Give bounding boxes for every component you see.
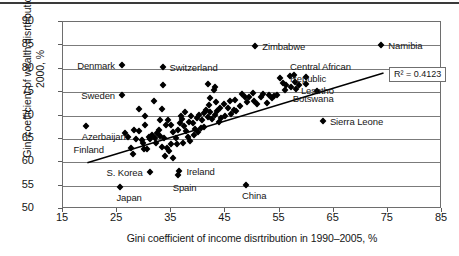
annotation-central-african: Central African <box>290 61 351 72</box>
data-point-namibia <box>378 42 385 49</box>
data-point <box>141 113 148 120</box>
data-point-zimbabwe <box>252 43 259 50</box>
annotation-japan: Japan <box>116 192 141 203</box>
data-point <box>168 122 175 129</box>
data-point-denmark <box>118 61 125 68</box>
x-tick-label: 35 <box>155 211 185 223</box>
y-tick-label: 90 <box>4 14 34 26</box>
annotation-republic: Republic <box>290 73 326 84</box>
gridline <box>63 69 440 70</box>
x-axis-title: Gini coefficient of income disrtribution… <box>62 232 442 244</box>
x-tick-label: 55 <box>264 211 294 223</box>
y-tick-label: 80 <box>4 61 34 73</box>
x-tick-mark <box>170 208 171 212</box>
annotation-azerbaijan: Azerbaijan <box>82 131 126 142</box>
annotation-ireland: Ireland <box>186 166 214 177</box>
annotation-s-korea: S. Korea <box>106 167 142 178</box>
x-tick-label: 85 <box>426 211 456 223</box>
data-point-azerbaijan <box>82 122 89 129</box>
x-tick-mark <box>224 208 225 212</box>
data-point <box>232 96 239 103</box>
plot-area: NamibiaZimbabweCentral AfricanRepublicDe… <box>62 21 441 208</box>
data-point <box>144 145 151 152</box>
page-top-rule <box>0 2 459 4</box>
annotation-switzerland: Switzerland <box>170 62 218 73</box>
trendline <box>63 22 441 208</box>
x-tick-mark <box>62 208 63 212</box>
x-tick-mark <box>279 208 280 212</box>
annotation-sierra-leone: Sierra Leone <box>330 116 383 127</box>
data-point <box>160 134 167 141</box>
data-point <box>150 97 157 104</box>
y-tick-label: 75 <box>4 84 34 96</box>
annotation-botswana: Botswana <box>293 93 334 104</box>
annotation-zimbabwe: Zimbabwe <box>262 41 305 52</box>
data-point <box>254 101 261 108</box>
data-point-japan <box>117 183 124 190</box>
r-squared-label: R² = 0.4123 <box>389 67 446 82</box>
data-point <box>142 121 149 128</box>
y-tick-label: 60 <box>4 154 34 166</box>
x-tick-mark <box>441 208 442 212</box>
annotation-spain: Spain <box>173 182 197 193</box>
data-point <box>168 140 175 147</box>
data-point <box>158 144 165 151</box>
x-tick-label: 25 <box>101 211 131 223</box>
x-tick-label: 65 <box>318 211 348 223</box>
annotation-namibia: Namibia <box>388 40 422 51</box>
annotation-denmark: Denmark <box>77 60 115 71</box>
x-tick-label: 15 <box>47 211 77 223</box>
data-point <box>159 106 166 113</box>
annotation-china: China <box>242 190 266 201</box>
data-point-sierra-leone <box>319 117 326 124</box>
y-tick-label: 70 <box>4 108 34 120</box>
annotation-finland: Finland <box>73 144 103 155</box>
data-point-china <box>242 182 249 189</box>
data-point <box>130 151 137 158</box>
x-tick-mark <box>387 208 388 212</box>
data-point <box>170 154 177 161</box>
x-tick-label: 45 <box>209 211 239 223</box>
y-tick-label: 85 <box>4 37 34 49</box>
x-tick-label: 75 <box>372 211 402 223</box>
data-point <box>160 82 167 89</box>
data-point <box>135 105 142 112</box>
data-point <box>263 100 270 107</box>
gridline <box>63 116 440 117</box>
y-tick-label: 65 <box>4 131 34 143</box>
x-tick-mark <box>116 208 117 212</box>
x-tick-mark <box>333 208 334 212</box>
chart-figure: Gini coefficient of wealth disrtribution… <box>0 0 459 256</box>
y-tick-label: 50 <box>4 201 34 213</box>
data-point-s-korea <box>146 168 153 175</box>
gridline <box>63 162 440 163</box>
annotation-sweden: Sweden <box>81 90 115 101</box>
y-tick-label: 55 <box>4 178 34 190</box>
